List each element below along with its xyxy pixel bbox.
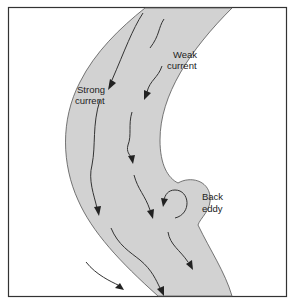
river-diagram: Weak current Strong current Back eddy (0, 0, 298, 304)
back-eddy-label-line1: Back (202, 191, 223, 202)
strong-current-label-line2: current (75, 95, 105, 106)
weak-current-label-line1: Weak (173, 49, 197, 60)
back-eddy-label-line2: eddy (202, 203, 223, 214)
weak-current-label-line2: current (167, 60, 197, 71)
strong-current-label-line1: Strong (77, 84, 105, 95)
